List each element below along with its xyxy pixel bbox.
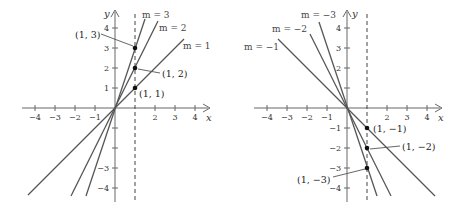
point-label-1-neg2: (1, −2) [402, 141, 436, 152]
line-label-mneg3: m = −3 [301, 10, 336, 20]
line-label-m1: m = 1 [183, 41, 211, 51]
point-1-neg1 [365, 126, 370, 131]
y-tick-label: 2 [336, 64, 341, 73]
y-tick-label: 2 [104, 64, 109, 73]
point-label-1-3: (1, 3) [75, 29, 101, 40]
x-tick-label: −4 [261, 113, 273, 122]
x-tick-label: −4 [29, 113, 41, 122]
left-panel: −4 −3 −2 −1 2 3 4 1 2 3 4 −3 −4 x y m = … [22, 8, 212, 202]
x-tick-label: 2 [384, 113, 389, 122]
x-tick-label: 2 [152, 113, 157, 122]
point-label-1-2: (1, 2) [162, 68, 188, 79]
figure: −4 −3 −2 −1 2 3 4 1 2 3 4 −3 −4 x y m = … [0, 0, 464, 213]
x-tick-label: −1 [89, 113, 101, 122]
x-tick-label: 3 [404, 113, 409, 122]
y-tick-label: 1 [104, 84, 109, 93]
x-tick-label: −3 [49, 113, 61, 122]
x-tick-label: 3 [172, 113, 177, 122]
y-axis-label: y [351, 8, 358, 19]
y-tick-label: −2 [329, 144, 341, 153]
x-tick-label: −3 [281, 113, 293, 122]
point-1-1 [133, 86, 138, 91]
y-tick-label: 3 [104, 44, 109, 53]
y-axis-label: y [103, 8, 110, 19]
y-tick-label: −3 [97, 164, 109, 173]
point-label-1-1: (1, 1) [139, 88, 165, 99]
x-axis-label: x [206, 112, 212, 123]
y-tick-label: −4 [329, 184, 341, 193]
line-label-m3: m = 3 [142, 10, 170, 20]
x-tick-label: 4 [424, 113, 429, 122]
y-tick-label: 4 [104, 24, 109, 33]
point-1-neg3 [365, 166, 370, 171]
point-1-neg2 [365, 146, 370, 151]
y-tick-label: −3 [329, 164, 341, 173]
x-tick-label: −2 [301, 113, 313, 122]
point-1-3 [133, 46, 138, 51]
point-label-1-neg3: (1, −3) [297, 174, 331, 185]
x-tick-label: 4 [192, 113, 197, 122]
right-panel: −4 −3 −2 −1 2 3 4 2 3 4 −1 −2 −3 −4 x y … [244, 8, 444, 202]
y-tick-label: 3 [336, 44, 341, 53]
point-label-1-neg1: (1, −1) [373, 123, 407, 134]
y-tick-label: 4 [336, 24, 341, 33]
point-1-2 [133, 66, 138, 71]
x-tick-label: −2 [69, 113, 81, 122]
x-axis-label: x [438, 112, 444, 123]
y-tick-label: −1 [329, 124, 341, 133]
leader-line [138, 69, 160, 73]
line-label-mneg1: m = −1 [244, 42, 279, 52]
x-tick-label: −1 [321, 113, 333, 122]
y-tick-label: −4 [97, 184, 109, 193]
line-label-m2: m = 2 [159, 23, 187, 33]
line-label-mneg2: m = −2 [272, 24, 307, 34]
